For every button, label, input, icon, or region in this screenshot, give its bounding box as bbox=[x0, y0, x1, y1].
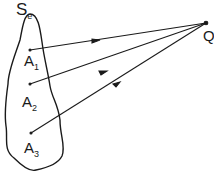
arrow-icon bbox=[92, 39, 100, 43]
point-a2-dot bbox=[29, 83, 31, 85]
point-a1-label: A1 bbox=[24, 53, 39, 72]
ray-a1-q bbox=[30, 23, 206, 50]
point-q-label: Q bbox=[203, 28, 214, 43]
point-a3-dot bbox=[30, 132, 32, 134]
ray-a3-q bbox=[31, 23, 206, 133]
point-a1-dot bbox=[29, 49, 31, 51]
arrow-icon bbox=[113, 82, 120, 87]
point-a2-label: A2 bbox=[22, 94, 37, 113]
point-q-dot bbox=[204, 21, 208, 25]
ray-a2-q bbox=[30, 23, 206, 84]
arrow-icon bbox=[99, 71, 107, 75]
point-a3-label: A3 bbox=[24, 140, 39, 159]
surface-label: Se bbox=[16, 1, 32, 21]
